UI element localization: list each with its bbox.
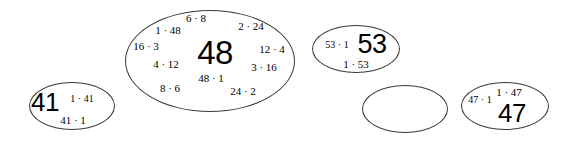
bubble-headline-number: 47 bbox=[498, 100, 526, 126]
factor-pair-label: 1 · 53 bbox=[343, 59, 369, 70]
factor-pair-label: 1 · 47 bbox=[496, 87, 522, 98]
factor-pair-label: 6 · 8 bbox=[186, 13, 206, 24]
factor-pair-label: 16 · 3 bbox=[133, 41, 159, 52]
factor-pair-label: 2 · 24 bbox=[238, 21, 264, 32]
factor-pair-label: 41 · 1 bbox=[60, 115, 86, 126]
factor-pair-label: 1 · 41 bbox=[70, 94, 93, 104]
factor-pair-label: 1 · 48 bbox=[155, 25, 181, 36]
factor-pair-label: 4 · 12 bbox=[153, 59, 179, 70]
factor-pair-label: 47 · 1 bbox=[468, 95, 491, 105]
factor-bubble-diagram: 411 · 4141 · 1486 · 81 · 482 · 2416 · 31… bbox=[0, 0, 570, 148]
factor-pair-label: 24 · 2 bbox=[230, 86, 256, 97]
bubble-headline-number: 41 bbox=[31, 89, 59, 115]
bubble-empty[interactable] bbox=[362, 85, 448, 133]
bubble-headline-number: 53 bbox=[357, 31, 386, 58]
factor-pair-label: 8 · 6 bbox=[160, 83, 180, 94]
factor-pair-label: 3 · 16 bbox=[251, 62, 277, 73]
factor-pair-label: 12 · 4 bbox=[259, 44, 285, 55]
factor-pair-label: 48 · 1 bbox=[198, 73, 224, 84]
bubble-headline-number: 48 bbox=[197, 36, 233, 69]
factor-pair-label: 53 · 1 bbox=[325, 40, 348, 50]
